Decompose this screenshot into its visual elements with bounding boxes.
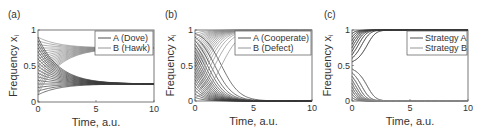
x-tick-label: 5: [407, 103, 412, 113]
y-axis-label: Frequency xi: [7, 35, 20, 98]
legend: A (Dove) B (Hawk): [95, 31, 153, 55]
x-tick-label: 0: [349, 103, 354, 113]
curve-b-10: [352, 73, 468, 101]
y-tick-label: 0: [31, 97, 36, 107]
curve-a-1: [38, 84, 154, 91]
curve-a-8: [352, 69, 468, 101]
x-tick-label: 5: [251, 103, 256, 113]
legend-label-a: A (Dove): [113, 33, 148, 43]
legend: Strategy A Strategy B: [407, 31, 467, 55]
y-axis-label-subscript: i: [327, 34, 334, 36]
y-axis-label-main: Frequency x: [321, 36, 333, 97]
y-axis-label: Frequency xi: [321, 34, 334, 97]
y-tick-label: 0: [188, 96, 193, 106]
panel-b: (b) 051000.51 Time, a.u. Frequency xi A …: [164, 9, 317, 127]
y-axis-label-main: Frequency x: [164, 36, 176, 97]
y-tick-label: 0.5: [337, 61, 350, 71]
y-tick-label: 0: [345, 96, 350, 106]
y-tick-label: 1: [188, 25, 193, 35]
y-tick-label: 1: [31, 25, 36, 35]
x-tick-label: 10: [307, 103, 317, 113]
curve-b-13: [352, 83, 468, 101]
y-axis-label: Frequency xi: [164, 34, 177, 97]
y-axis-label-subscript: i: [13, 35, 20, 37]
panel-label: (b): [165, 9, 177, 20]
curve-b-9: [352, 69, 468, 101]
y-tick-label: 0.5: [23, 61, 36, 71]
x-axis-label: Time, a.u.: [229, 115, 278, 127]
x-tick-label: 10: [463, 103, 473, 113]
x-tick-label: 10: [149, 104, 159, 114]
x-axis-label: Time, a.u.: [386, 115, 435, 127]
x-tick-label: 0: [35, 104, 40, 114]
panel-label: (a): [8, 9, 20, 20]
legend: A (Cooperate) B (Defect): [235, 31, 311, 55]
figure: (a) 051000.51 Time, a.u. Frequency xi A …: [0, 0, 480, 135]
y-tick-label: 1: [345, 25, 350, 35]
legend-label-b: Strategy B: [425, 43, 467, 53]
curve-a-4: [352, 83, 468, 101]
y-tick-label: 0.5: [180, 61, 193, 71]
x-tick-label: 0: [192, 103, 197, 113]
panel-label: (c): [324, 9, 336, 20]
x-axis-label: Time, a.u.: [72, 116, 121, 128]
legend-label-b: B (Hawk): [113, 43, 150, 53]
panel-a: (a) 051000.51 Time, a.u. Frequency xi A …: [7, 9, 159, 128]
legend-label-a: A (Cooperate): [253, 33, 309, 43]
y-axis-label-subscript: i: [170, 34, 177, 36]
legend-label-a: Strategy A: [425, 33, 467, 43]
y-axis-label-main: Frequency x: [7, 36, 19, 97]
panel-c: (c) 051000.51 Time, a.u. Frequency xi St…: [321, 9, 473, 127]
x-tick-label: 5: [93, 104, 98, 114]
legend-label-b: B (Defect): [253, 43, 294, 53]
